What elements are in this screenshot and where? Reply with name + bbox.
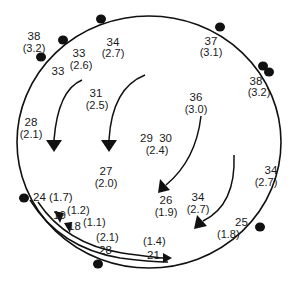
label-sub: (2.6) xyxy=(70,59,93,71)
label-value: 26 xyxy=(160,194,173,206)
station-dot xyxy=(19,194,29,203)
label-value: 31 xyxy=(90,87,103,99)
label-value: 34 xyxy=(192,191,205,203)
station-dot xyxy=(255,223,265,232)
inline-label: 19 xyxy=(53,209,66,221)
inline-label: (1.8) xyxy=(217,228,240,240)
label-sub: (3.1) xyxy=(200,46,223,58)
label-sub: (2.4) xyxy=(146,144,169,156)
flow-arrow-3 xyxy=(166,116,201,185)
inline-label: 21 xyxy=(147,249,160,261)
station-dot xyxy=(58,36,68,45)
label-sub: (2.5) xyxy=(86,99,109,111)
flow-arrow-2 xyxy=(109,75,145,140)
station-dot xyxy=(264,68,274,77)
label-value: 28 xyxy=(25,116,38,128)
labels: 38 (3.2) 34 (2.7) 33 (2.6) 33 37 (3.1) 3… xyxy=(20,30,278,218)
inline-label: (1.4) xyxy=(143,235,166,247)
inline-label: (1.2) xyxy=(67,204,90,216)
circulation-diagram: 38 (3.2) 34 (2.7) 33 (2.6) 33 37 (3.1) 3… xyxy=(0,0,297,291)
label-sub: (3.2) xyxy=(23,42,46,54)
flow-arrow-1 xyxy=(54,80,82,140)
inline-label: 18 xyxy=(68,220,81,232)
inline-label: 28 xyxy=(99,244,112,256)
inline-label: (2.1) xyxy=(96,231,119,243)
station-dot xyxy=(96,15,106,24)
label-value: 27 xyxy=(100,165,113,177)
station-dot xyxy=(215,23,225,32)
arrowhead-icon xyxy=(158,179,170,193)
arrowhead-icon xyxy=(46,140,62,152)
label-sub: (2.7) xyxy=(255,176,278,188)
label-sub: (2.7) xyxy=(102,47,125,59)
label-sub: (3.2) xyxy=(248,86,271,98)
label-sub: (2.0) xyxy=(95,177,118,189)
arrowhead-icon xyxy=(101,140,117,152)
label-sub: (2.7) xyxy=(187,203,210,215)
label-sub: (2.1) xyxy=(20,128,43,140)
label-value: 34 xyxy=(265,164,278,176)
label-value: 33 xyxy=(52,65,65,77)
inline-label: 24 (1.7) xyxy=(33,191,73,203)
station-dot xyxy=(93,260,103,269)
label-value: 36 xyxy=(190,91,203,103)
label-sub: (1.9) xyxy=(155,206,178,218)
label-value: 38 xyxy=(28,30,41,42)
label-value: 29 30 xyxy=(140,132,172,144)
label-value: 33 xyxy=(73,47,86,59)
label-sub: (3.0) xyxy=(185,103,208,115)
inline-label: (1.1) xyxy=(83,216,106,228)
inline-label: 25 xyxy=(235,216,248,228)
arrowhead-icon xyxy=(194,215,207,229)
